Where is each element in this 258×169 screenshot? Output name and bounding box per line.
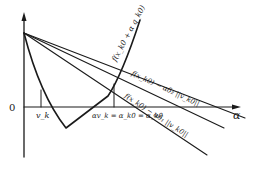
y-axis-arrow-icon <box>22 12 27 21</box>
x-axis-label: α <box>233 109 241 122</box>
lines <box>24 33 245 155</box>
tick-v-label: v_k <box>36 111 50 120</box>
line-search-diagram: 0 α v_k αv_k = α_k0 = α_k0 f(x_k0 + α q_… <box>0 0 258 169</box>
origin-label: 0 <box>9 102 15 113</box>
